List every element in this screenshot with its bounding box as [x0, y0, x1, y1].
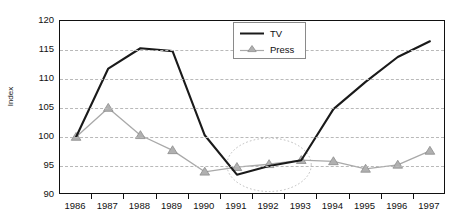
y-tick-label-105: 105 [20, 102, 54, 112]
legend-swatch-tv-line-icon [239, 25, 265, 42]
gridline-95 [60, 166, 444, 167]
gridline-110 [60, 79, 444, 80]
y-axis-tick-labels: 1201151101051009590 [20, 0, 54, 223]
legend-swatch-press-triangle-icon [239, 41, 265, 58]
legend-label-press: Press [270, 45, 294, 55]
x-tick-1996 [381, 194, 382, 199]
gridline-105 [60, 108, 444, 109]
x-axis-tick-labels: 1986198719881989199019911992199319941995… [59, 201, 445, 217]
legend-item-press: Press [234, 41, 307, 58]
x-axis-ticks [59, 194, 445, 199]
gridline-100 [60, 137, 444, 138]
x-tick-1997 [413, 194, 414, 199]
x-tick-1995 [349, 194, 350, 199]
x-tick-1991 [220, 194, 221, 199]
x-tick-1992 [252, 194, 253, 199]
x-tick-1988 [123, 194, 124, 199]
x-tick-1994 [316, 194, 317, 199]
y-tick-label-120: 120 [20, 15, 54, 25]
line-chart: Index 1201151101051009590 19861987198819… [0, 0, 460, 223]
legend-label-tv: TV [270, 29, 282, 39]
series-line-press [76, 108, 430, 172]
x-tick-1987 [91, 194, 92, 199]
x-tick-label-1997: 1997 [409, 201, 449, 211]
data-point-press-1997 [425, 146, 435, 154]
x-tick-1989 [156, 194, 157, 199]
y-tick-label-90: 90 [20, 189, 54, 199]
chart-legend: TV Press [233, 22, 306, 59]
legend-item-tv: TV [234, 25, 307, 42]
x-tick-1993 [284, 194, 285, 199]
data-point-press-1989 [168, 146, 178, 154]
y-tick-label-110: 110 [20, 73, 54, 83]
y-tick-label-95: 95 [20, 160, 54, 170]
y-axis-title: Index [6, 69, 15, 125]
y-tick-label-115: 115 [20, 44, 54, 54]
x-tick-1990 [188, 194, 189, 199]
y-tick-label-100: 100 [20, 131, 54, 141]
